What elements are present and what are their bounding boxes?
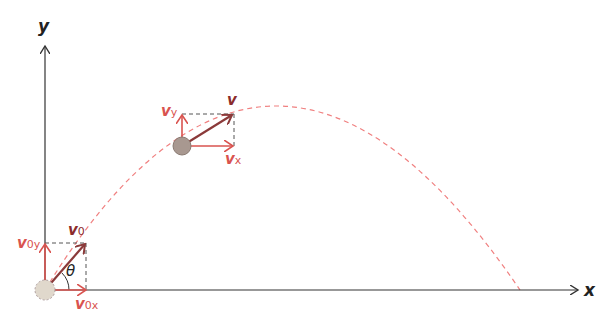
v-label: v — [227, 93, 237, 108]
trajectory-path — [45, 106, 520, 290]
v0y-label: v0y — [17, 236, 40, 251]
ball-start — [35, 280, 55, 300]
diagram-canvas — [0, 0, 601, 318]
v0-label: v0 — [68, 223, 85, 238]
ball-mid — [173, 137, 191, 155]
y-axis-label: y — [38, 18, 49, 35]
vx-label: vx — [225, 152, 241, 167]
projectile-diagram: y x v0 v0y v0x θ v vy vx — [0, 0, 601, 318]
v0x-label: v0x — [75, 297, 98, 312]
theta-label: θ — [66, 264, 75, 279]
vy-label: vy — [161, 104, 177, 119]
x-axis-label: x — [584, 282, 595, 299]
